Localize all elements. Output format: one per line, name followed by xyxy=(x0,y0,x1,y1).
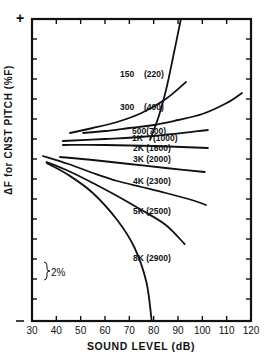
annotations: 2% xyxy=(44,262,66,280)
curve-label: (220) xyxy=(144,69,164,79)
y-axis-label: ΔF for CNST PITCH (%F) xyxy=(0,0,18,360)
chart: 30405060708090100110120+ 150(220)300(400… xyxy=(0,0,270,360)
x-tick-label: 80 xyxy=(148,325,160,336)
curve-label: (400) xyxy=(144,102,164,112)
x-tick-label: 70 xyxy=(124,325,136,336)
x-tick-label: 30 xyxy=(26,325,38,336)
scale-label: 2% xyxy=(51,267,66,278)
curve-label: (1000) xyxy=(153,133,178,143)
x-tick-label: 120 xyxy=(243,325,260,336)
scale-bracket xyxy=(44,262,50,280)
x-tick-label: 110 xyxy=(219,325,235,336)
curve-label: 4K (2300) xyxy=(133,176,171,186)
x-tick-label: 60 xyxy=(99,325,111,336)
curve-label: 5K (2500) xyxy=(133,206,171,216)
x-tick-label: 50 xyxy=(75,325,87,336)
x-tick-label: 100 xyxy=(194,325,211,336)
curve-label: 3K (2000) xyxy=(133,154,171,164)
curve-label: 2K (1600) xyxy=(133,143,171,153)
y-axis-title: ΔF for CNST PITCH (%F) xyxy=(3,65,14,195)
curve-label: 300 xyxy=(120,102,134,112)
axis-ticks: 30405060708090100110120+ xyxy=(16,10,260,336)
curve-label: 1K xyxy=(132,133,144,143)
x-tick-label: 90 xyxy=(172,325,184,336)
x-axis-label: SOUND LEVEL (dB) xyxy=(0,340,270,352)
curve-label: 8K (2900) xyxy=(133,253,171,263)
data-curves xyxy=(43,19,242,321)
curve-label: 150 xyxy=(120,69,134,79)
x-tick-label: 40 xyxy=(51,325,63,336)
